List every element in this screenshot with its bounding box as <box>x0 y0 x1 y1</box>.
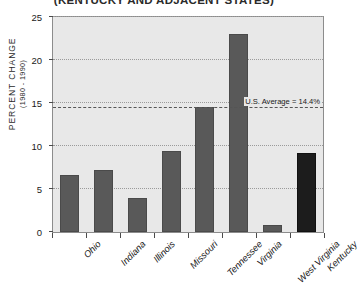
bar-slot <box>87 17 121 232</box>
chart-title: (KENTUCKY AND ADJACENT STATES) <box>0 0 328 6</box>
us-average-label: U.S. Average = 14.4% <box>244 97 321 106</box>
y-tick-label-5: 5 <box>37 184 42 195</box>
bar-indiana[interactable] <box>94 170 113 232</box>
bar-illinois[interactable] <box>128 198 147 232</box>
x-tick <box>120 233 121 238</box>
x-label-illinois: Illinois <box>152 239 177 264</box>
y-axis-title-sub: (1980 - 1990) <box>18 19 27 149</box>
bar-slot <box>188 17 222 232</box>
bar-slot <box>256 17 290 232</box>
bar-series <box>53 17 323 232</box>
x-label-ohio: Ohio <box>82 239 103 260</box>
bar-kentucky[interactable] <box>297 153 316 232</box>
y-axis-title: PERCENT CHANGE (1980 - 1990) <box>7 19 27 149</box>
plot-area: 0510152025 U.S. Average = 14.4% <box>52 16 324 233</box>
y-tick-label-20: 20 <box>31 55 42 66</box>
x-label-indiana: Indiana <box>119 239 148 268</box>
bar-slot <box>222 17 256 232</box>
bar-west-virginia[interactable] <box>263 225 282 232</box>
y-tick-label-25: 25 <box>31 12 42 23</box>
bar-missouri[interactable] <box>162 151 181 232</box>
x-label-missouri: Missouri <box>189 239 221 271</box>
us-average-line <box>53 107 323 108</box>
x-tick <box>188 233 189 238</box>
y-axis-title-main: PERCENT CHANGE <box>7 38 17 131</box>
bar-ohio[interactable] <box>60 175 79 232</box>
y-tick-label-10: 10 <box>31 141 42 152</box>
bar-virginia[interactable] <box>229 34 248 232</box>
bar-tennessee[interactable] <box>195 107 214 232</box>
bar-slot <box>154 17 188 232</box>
x-tick <box>154 233 155 238</box>
x-tick <box>222 233 223 238</box>
bar-slot <box>121 17 155 232</box>
x-tick <box>86 233 87 238</box>
y-tick-label-0: 0 <box>37 227 42 238</box>
x-axis-labels: OhioIndianaIllinoisMissouriTennesseeVirg… <box>52 239 324 299</box>
x-tick <box>52 233 53 238</box>
y-tick-label-15: 15 <box>31 98 42 109</box>
bar-slot <box>289 17 323 232</box>
x-tick <box>290 233 291 238</box>
x-tick <box>256 233 257 238</box>
x-tick <box>324 233 325 238</box>
bar-slot <box>53 17 87 232</box>
